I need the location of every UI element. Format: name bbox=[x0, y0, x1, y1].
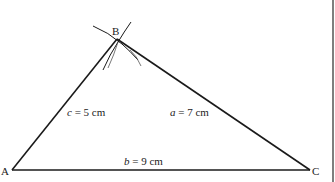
side-c-label: c = 5 cm bbox=[67, 106, 106, 118]
side-a bbox=[117, 39, 310, 170]
vertex-c-label: C bbox=[312, 165, 319, 177]
side-c bbox=[12, 39, 117, 170]
vertex-a-label: A bbox=[1, 165, 9, 177]
side-b-label: b = 9 cm bbox=[124, 155, 163, 167]
compass-arc-trace bbox=[108, 42, 118, 68]
side-a-label: a = 7 cm bbox=[170, 106, 209, 118]
vertex-b-label: B bbox=[112, 25, 119, 37]
triangle-diagram: A B C c = 5 cm a = 7 cm b = 9 cm bbox=[0, 0, 335, 182]
